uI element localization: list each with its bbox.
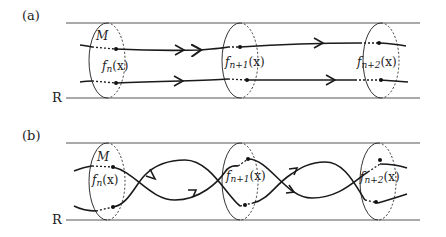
fiber-label-fn: fn(x) [91,173,118,188]
manifold-label-M: M [96,150,110,164]
panel-a: (a) R [22,8,420,105]
fiber-label-fn2: fn+2(x) [359,170,400,185]
panel-b-label: (b) [22,128,40,143]
fiber-label-fn2: fn+2(x) [356,55,397,70]
fiber-label-fn1: fn+1(x) [224,55,265,70]
fiber-label-fn1: fn+1(x) [225,169,266,184]
manifold-label-M: M [95,29,109,43]
trajectory-lower-a [116,79,228,83]
base-label-R: R [52,90,63,105]
arrow-icon [146,169,155,179]
panel-a-label: (a) [22,8,40,23]
fiber-bundle-diagram: (a) R [0,0,446,237]
fiber-label-fn: fn(x) [101,59,128,74]
base-label-R: R [52,212,63,227]
panel-b: (b) R [22,128,420,227]
trajectory-upper-a [115,47,228,50]
